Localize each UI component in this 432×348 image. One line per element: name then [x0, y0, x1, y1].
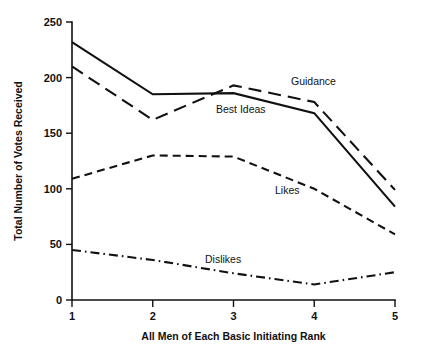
series-label-dislikes: Dislikes [205, 253, 241, 265]
x-tick-label-3: 3 [230, 310, 236, 322]
x-tick-label-2: 2 [150, 310, 156, 322]
x-tick-label-4: 4 [311, 310, 318, 322]
series-label-guidance: Guidance [291, 75, 336, 87]
series-group [72, 42, 395, 284]
y-axis-title: Total Number of Votes Received [12, 81, 24, 240]
x-axis-ticks [72, 300, 395, 307]
y-axis-ticks [66, 22, 72, 300]
series-label-likes: Likes [275, 184, 300, 196]
x-tick-label-5: 5 [392, 310, 398, 322]
y-tick-label-100: 100 [44, 183, 62, 195]
x-axis-tick-labels: 1 2 3 4 5 [69, 310, 398, 322]
chart-page: 0 50 100 150 200 250 1 2 3 4 5 All Men o… [0, 0, 432, 348]
y-tick-label-200: 200 [44, 72, 62, 84]
y-tick-label-50: 50 [50, 238, 62, 250]
y-axis-tick-labels: 0 50 100 150 200 250 [44, 16, 62, 306]
series-line-likes [72, 155, 395, 234]
series-line-best-ideas [72, 66, 395, 189]
series-label-best-ideas: Best Ideas [216, 103, 266, 115]
y-tick-label-150: 150 [44, 127, 62, 139]
line-chart: 0 50 100 150 200 250 1 2 3 4 5 All Men o… [0, 0, 432, 348]
x-axis-title: All Men of Each Basic Initiating Rank [141, 330, 326, 342]
x-tick-label-1: 1 [69, 310, 75, 322]
y-tick-label-250: 250 [44, 16, 62, 28]
series-line-guidance [72, 42, 395, 207]
y-tick-label-0: 0 [56, 294, 62, 306]
